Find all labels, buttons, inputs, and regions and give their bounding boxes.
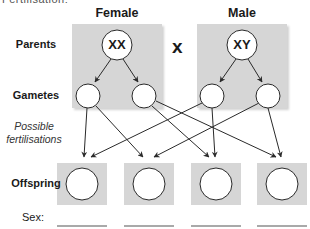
female-gamete-circle-1: [76, 84, 100, 108]
fertilisation-arrows: [84, 101, 281, 157]
male-gamete-circle-1: [200, 84, 224, 108]
row-label-gametes: Gametes: [6, 89, 66, 101]
offspring-circle-1: [66, 168, 98, 200]
female-genotype-label: XX: [102, 37, 132, 52]
cross-symbol: x: [172, 36, 183, 58]
row-label-parents: Parents: [6, 38, 66, 50]
offspring-circle-3: [200, 168, 232, 200]
offspring-circle-2: [133, 168, 165, 200]
genetic-cross-diagram: [0, 0, 310, 229]
row-label-fertilisations-line1: Possible: [2, 120, 66, 133]
male-genotype-label: XY: [227, 37, 257, 52]
female-gamete-circle-2: [132, 84, 156, 108]
row-label-fertilisations-line2: fertilisations: [2, 133, 66, 146]
row-label-sex: Sex:: [22, 211, 44, 223]
offspring-circle-4: [266, 168, 298, 200]
row-label-offspring: Offspring: [6, 177, 66, 189]
male-gamete-circle-2: [256, 84, 280, 108]
